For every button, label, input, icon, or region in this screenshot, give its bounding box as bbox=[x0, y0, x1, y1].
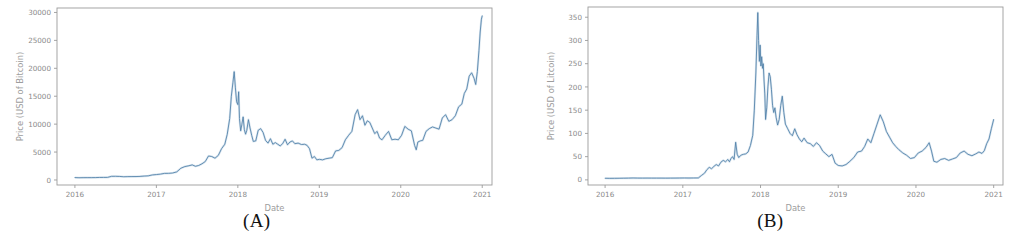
y-tick-label: 150 bbox=[568, 106, 582, 115]
x-tick-label: 2020 bbox=[392, 190, 411, 199]
chart-panel-a: 2016201720182019202020210500010000150002… bbox=[0, 0, 514, 248]
figure-panel-row: 2016201720182019202020210500010000150002… bbox=[0, 0, 1027, 248]
x-tick-label: 2016 bbox=[595, 190, 614, 199]
y-tick-label: 0 bbox=[46, 176, 51, 185]
chart-plot-a: 2016201720182019202020210500010000150002… bbox=[0, 0, 514, 215]
x-tick-label: 2019 bbox=[829, 190, 848, 199]
x-tick-label: 2016 bbox=[66, 190, 85, 199]
y-tick-label: 0 bbox=[577, 175, 582, 184]
x-tick-label: 2021 bbox=[473, 190, 491, 199]
series-line bbox=[75, 16, 482, 178]
y-tick-label: 30000 bbox=[28, 8, 51, 17]
bitcoin-price-chart: 2016201720182019202020210500010000150002… bbox=[0, 0, 514, 215]
y-tick-label: 20000 bbox=[28, 64, 51, 73]
y-tick-label: 200 bbox=[568, 83, 582, 92]
y-tick-label: 10000 bbox=[28, 120, 51, 129]
y-axis-title: Price (USD of Bitcoin) bbox=[15, 52, 25, 142]
x-tick-label: 2017 bbox=[147, 190, 165, 199]
x-tick-label: 2019 bbox=[310, 190, 329, 199]
y-tick-label: 15000 bbox=[28, 92, 51, 101]
y-axis-title: Price (USD of Litcoin) bbox=[546, 52, 556, 141]
x-tick-label: 2021 bbox=[984, 190, 1002, 199]
y-tick-label: 25000 bbox=[28, 36, 51, 45]
series-line bbox=[605, 13, 994, 179]
plot-frame bbox=[588, 7, 1003, 185]
chart-plot-b: 2016201720182019202020210501001502002503… bbox=[514, 0, 1027, 215]
series-glow bbox=[75, 16, 482, 178]
series-glow bbox=[605, 13, 994, 179]
x-tick-label: 2018 bbox=[229, 190, 248, 199]
panel-b-caption: (B) bbox=[514, 210, 1027, 232]
y-tick-label: 300 bbox=[568, 36, 582, 45]
plot-frame bbox=[57, 8, 492, 185]
chart-panel-b: 2016201720182019202020210501001502002503… bbox=[514, 0, 1027, 248]
panel-a-caption: (A) bbox=[0, 210, 514, 232]
x-tick-label: 2017 bbox=[673, 190, 691, 199]
y-tick-label: 350 bbox=[568, 13, 582, 22]
y-tick-label: 250 bbox=[568, 59, 582, 68]
y-tick-label: 5000 bbox=[33, 148, 52, 157]
x-tick-label: 2020 bbox=[906, 190, 925, 199]
y-tick-label: 100 bbox=[568, 129, 582, 138]
x-tick-label: 2018 bbox=[751, 190, 770, 199]
y-tick-label: 50 bbox=[572, 152, 582, 161]
litecoin-price-chart: 2016201720182019202020210501001502002503… bbox=[514, 0, 1027, 215]
